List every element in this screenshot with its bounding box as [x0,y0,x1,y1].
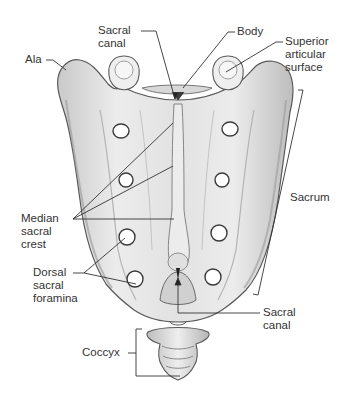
label-line: Sacrum [290,191,330,204]
label-sacrum: Sacrum [290,191,330,204]
label-line: sacral [21,225,59,238]
label-line: canal [263,319,296,332]
label-line: Body [237,25,263,38]
label-line: articular [285,48,328,61]
label-line: sacral [33,279,78,292]
label-line: foramina [33,292,78,305]
label-line: canal [98,37,131,50]
label-line: Coccyx [82,346,120,359]
coccyx-bone [147,322,209,380]
label-line: Superior [285,35,328,48]
label-sacral-canal-top: Sacral canal [98,24,131,50]
label-dorsal-sacral-foramina: Dorsal sacral foramina [33,266,78,305]
label-superior-articular-surface: Superior articular surface [285,35,328,74]
label-body: Body [237,25,263,38]
label-line: surface [285,61,328,74]
label-median-sacral-crest: Median sacral crest [21,212,59,251]
label-line: Sacral [98,24,131,37]
label-line: Median [21,212,59,225]
label-line: Dorsal [33,266,78,279]
label-coccyx: Coccyx [82,346,120,359]
label-sacral-canal-bottom: Sacral canal [263,306,296,332]
label-line: crest [21,238,59,251]
label-line: Ala [25,53,42,66]
label-ala: Ala [25,53,42,66]
label-line: Sacral [263,306,296,319]
